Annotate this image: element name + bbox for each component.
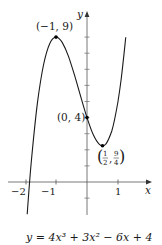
- y-axis-arrow-icon: [85, 11, 90, 17]
- y-intercept-label: (0, 4): [57, 111, 85, 123]
- svg-text:2: 2: [103, 159, 107, 167]
- equation-caption: y = 4x³ + 3x² − 6x + 4: [25, 231, 152, 244]
- local-max-point: [54, 35, 58, 39]
- svg-text:,: ,: [109, 152, 112, 164]
- x-tick-label-1: 1: [115, 186, 121, 197]
- local-max-label: (−1, 9): [36, 20, 73, 32]
- function-graph: y x −2 −1 1 (−1, 9) (0, 4) ( 1 2 , 9 4 )…: [0, 0, 162, 245]
- x-tick-label-neg1: −1: [41, 186, 56, 197]
- x-tick-label-neg2: −2: [11, 186, 26, 197]
- svg-text:1: 1: [103, 150, 107, 158]
- x-axis-label: x: [145, 184, 151, 196]
- svg-text:): ): [119, 147, 125, 166]
- svg-text:9: 9: [114, 150, 118, 158]
- y-intercept-point: [85, 116, 89, 120]
- y-axis-label: y: [76, 8, 84, 20]
- local-min-label: ( 1 2 , 9 4 ): [97, 147, 125, 167]
